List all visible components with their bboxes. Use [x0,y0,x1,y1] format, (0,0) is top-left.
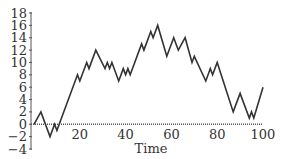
x-tick-label: 100 [251,127,276,142]
line-chart: −4−2024681012141618 20406080100 Time [0,0,283,159]
data-line [34,25,263,136]
y-tick-label: 18 [10,6,27,21]
x-axis: 20406080100 [31,124,275,142]
x-tick-label: 40 [117,127,134,142]
x-axis-title: Time [135,141,168,156]
x-tick-label: 80 [209,127,226,142]
x-tick-label: 20 [72,127,89,142]
y-axis: −4−2024681012141618 [8,6,32,157]
